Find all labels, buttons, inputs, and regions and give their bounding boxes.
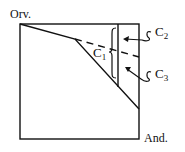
- solid-boundary-line: [20, 24, 139, 109]
- c2-arrowhead-icon: [123, 36, 129, 42]
- dashed-line: [75, 39, 139, 57]
- edgeworth-box-diagram: C1 C2 C3 Orv. And.: [0, 0, 185, 152]
- label-orv: Orv.: [10, 7, 31, 21]
- label-c3: C3: [155, 66, 169, 83]
- brace-icon: [109, 28, 116, 78]
- label-c2: C2: [155, 24, 168, 41]
- outer-box: [20, 24, 139, 139]
- label-and: And.: [144, 131, 168, 145]
